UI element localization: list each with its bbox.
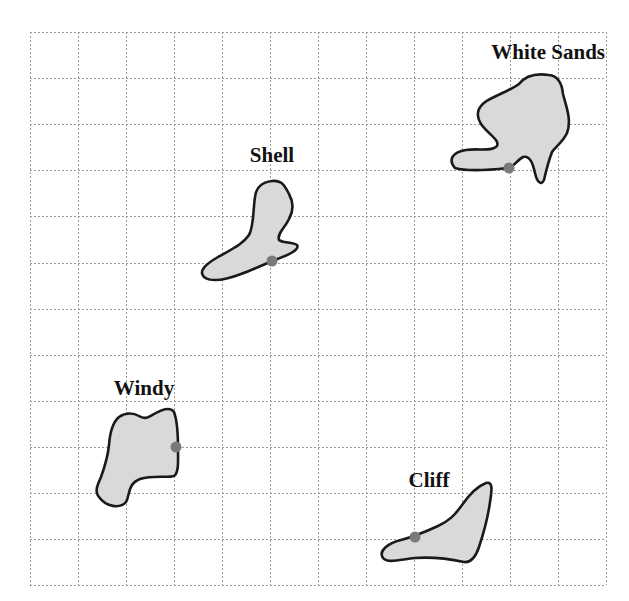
shell-label: Shell bbox=[250, 143, 295, 167]
region-windy[interactable]: Windy bbox=[97, 376, 182, 506]
cliff-area[interactable] bbox=[382, 483, 492, 562]
map-canvas: White Sands Shell Windy Cliff bbox=[0, 0, 629, 601]
windy-location-dot-icon[interactable] bbox=[171, 442, 182, 453]
region-cliff[interactable]: Cliff bbox=[382, 468, 492, 562]
cliff-label: Cliff bbox=[409, 468, 451, 492]
windy-area[interactable] bbox=[97, 409, 178, 506]
white-sands-location-dot-icon[interactable] bbox=[504, 163, 515, 174]
cliff-location-dot-icon[interactable] bbox=[410, 532, 421, 543]
region-shell[interactable]: Shell bbox=[202, 143, 298, 280]
white-sands-label: White Sands bbox=[491, 40, 605, 64]
shell-location-dot-icon[interactable] bbox=[267, 256, 278, 267]
windy-label: Windy bbox=[114, 376, 175, 400]
region-white-sands[interactable]: White Sands bbox=[452, 40, 605, 183]
shell-area[interactable] bbox=[202, 181, 298, 280]
